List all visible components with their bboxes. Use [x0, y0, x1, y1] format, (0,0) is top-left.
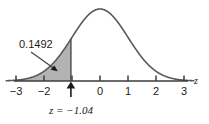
z-marker-label: z = −1.04 — [48, 104, 93, 116]
z-marker-arrowhead — [67, 82, 76, 89]
x-axis-label: z — [193, 75, 198, 86]
tick-label-one: 1 — [125, 85, 131, 97]
tick-label-minus3: −3 — [10, 85, 23, 97]
area-label-leader-line — [31, 52, 56, 70]
normal-distribution-figure: −3 −2 0 1 2 3 z 0.1492 z = −1.04 — [0, 0, 209, 124]
tick-label-three: 3 — [181, 85, 187, 97]
tick-label-two: 2 — [153, 85, 159, 97]
tick-label-minus2: −2 — [38, 85, 51, 97]
plot-svg: −3 −2 0 1 2 3 z 0.1492 z = −1.04 — [0, 0, 209, 124]
tick-label-zero: 0 — [97, 85, 103, 97]
area-value-label: 0.1492 — [19, 38, 53, 50]
